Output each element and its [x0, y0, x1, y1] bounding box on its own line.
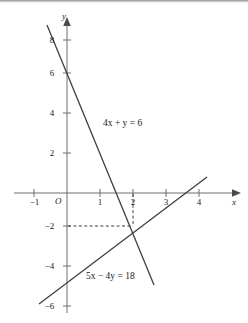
y-tick-label-minus-6: −6: [41, 302, 58, 311]
x-tick-label-1: 1: [94, 198, 106, 207]
y-tick-label-minus-4: −4: [41, 262, 58, 271]
y-tick-label-minus-2: −2: [41, 222, 58, 231]
x-tick-label-2: 2: [127, 198, 139, 207]
x-axis-label: x: [232, 198, 236, 207]
x-tick-label-4: 4: [193, 198, 205, 207]
x-axis-arrow: [232, 189, 241, 197]
y-tick-label-6: 6: [46, 69, 58, 78]
y-tick-label-4: 4: [46, 109, 58, 118]
line-4x-plus-y-equals-6: [47, 25, 154, 285]
graph-figure: y x O 8 6 4 2 −2 −4 −6 −1 1 2 3 4 4x + y…: [0, 0, 248, 323]
origin-label: O: [55, 197, 62, 206]
equation-label-line2: 5x − 4y = 18: [86, 272, 135, 282]
x-tick-label-3: 3: [160, 198, 172, 207]
y-axis-label: y: [62, 12, 66, 21]
line-5x-minus-4y-equals-18: [39, 177, 207, 304]
y-tick-label-2: 2: [46, 149, 58, 158]
y-tick-label-8: 8: [46, 36, 58, 45]
equation-label-line1: 4x + y = 6: [103, 119, 142, 129]
x-tick-label-minus-1: −1: [26, 198, 43, 207]
